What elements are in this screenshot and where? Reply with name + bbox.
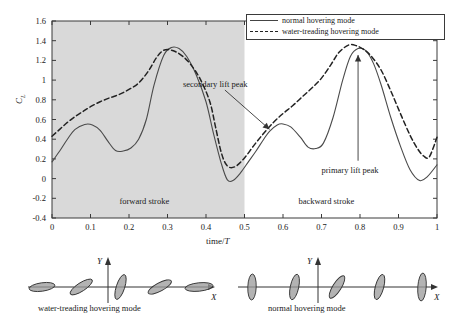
x-tick-label: 0.7	[308, 222, 336, 232]
diagram-y-axis-label: Y	[307, 256, 313, 266]
x-tick-label: 0	[38, 222, 66, 232]
stroke-kinematics-diagrams: XYXY	[0, 245, 450, 325]
figure-container: 1.61.41.210.80.60.40.20-0.2-0.4 00.10.20…	[0, 0, 450, 327]
legend-swatch-solid-line-icon	[250, 17, 278, 25]
x-tick-label: 0.4	[192, 222, 220, 232]
legend-item-water-treading-hovering-mode: water-treading hovering mode	[247, 26, 444, 37]
diagram-x-axis-label: X	[433, 292, 440, 302]
diagram-x-axis-label: X	[210, 292, 217, 302]
wing-section	[29, 281, 56, 293]
y-tick-label: 1.2	[0, 55, 46, 65]
y-tick-label: 0.4	[0, 134, 46, 144]
chart-legend: normal hovering mode water-treading hove…	[246, 14, 445, 40]
annotation-secondary-lift-peak: secondary lift peak	[183, 79, 248, 89]
shaded-forward-stroke-region	[52, 21, 245, 218]
x-tick-label: 0.8	[346, 222, 374, 232]
y-tick-label: 0	[0, 174, 46, 184]
legend-item-normal-hovering-mode: normal hovering mode	[247, 15, 444, 26]
x-tick-label: 0.6	[269, 222, 297, 232]
annotation-leader-lines	[225, 55, 361, 161]
diagram-normal-hovering-mode: XY	[238, 256, 440, 303]
x-tick-label: 0.9	[385, 222, 413, 232]
y-tick-label: 1.6	[0, 16, 46, 26]
y-axis-title-main: C	[14, 98, 24, 104]
legend-label-normal-hovering-mode: normal hovering mode	[282, 16, 355, 25]
x-tick-label: 0.1	[77, 222, 105, 232]
diagram-caption-water-treading-hovering-mode: water-treading hovering mode	[38, 303, 141, 313]
wing-section	[247, 274, 256, 300]
wing-section	[417, 273, 427, 302]
annotation-backward-stroke: backward stroke	[298, 196, 354, 206]
y-axis-title-sub: L	[19, 94, 26, 98]
y-tick-label: 0.2	[0, 154, 46, 164]
legend-label-water-treading-hovering-mode: water-treading hovering mode	[282, 27, 379, 36]
x-tick-label: 0.3	[154, 222, 182, 232]
diagram-y-axis-arrow-icon	[315, 257, 321, 265]
legend-swatch-dashed-line-icon	[250, 28, 278, 36]
annotation-primary-lift-peak: primary lift peak	[322, 165, 379, 175]
y-tick-label: 1.4	[0, 36, 46, 46]
x-tick-label: 0.5	[231, 222, 259, 232]
annotation-forward-stroke: forward stroke	[119, 196, 169, 206]
wing-section	[185, 281, 214, 292]
x-tick-label: 1	[423, 222, 450, 232]
figure-caption-strip	[0, 315, 450, 327]
y-tick-label: -0.2	[0, 193, 46, 203]
x-tick-label: 0.2	[115, 222, 143, 232]
diagram-y-axis-label: Y	[97, 256, 103, 266]
diagram-water-treading-hovering-mode: XY	[28, 256, 217, 303]
diagram-y-axis-arrow-icon	[105, 257, 111, 265]
y-axis-title: CL	[14, 94, 26, 104]
y-tick-label: 0.6	[0, 115, 46, 125]
diagram-caption-normal-hovering-mode: normal hovering mode	[268, 303, 345, 313]
y-tick-label: 1	[0, 75, 46, 85]
diagram-x-axis-arrow-icon	[431, 284, 438, 290]
